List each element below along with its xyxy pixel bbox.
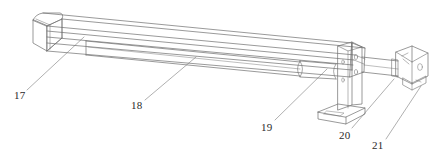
drive-shaft: [362, 57, 398, 77]
drawing-geometry: [27, 13, 428, 139]
lower-guide-rod: [86, 41, 300, 76]
callout-label-19: 19: [261, 122, 273, 133]
callout-label-18: 18: [131, 100, 143, 111]
technical-drawing: [0, 0, 435, 160]
leader-17: [27, 37, 84, 90]
callout-label-17: 17: [14, 90, 26, 101]
rod-bushing-sleeve: [298, 61, 337, 79]
leader-20: [352, 79, 394, 128]
figure-canvas: 17 18 19 20 21: [0, 0, 435, 160]
main-rail-beam: [43, 13, 365, 77]
right-end-mounting-block: [396, 46, 428, 90]
callout-label-20: 20: [339, 130, 351, 141]
callout-label-21: 21: [372, 140, 384, 151]
leader-21: [386, 86, 421, 139]
